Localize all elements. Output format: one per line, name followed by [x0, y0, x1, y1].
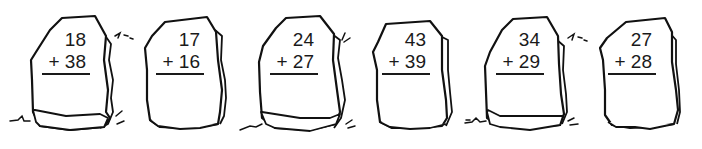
addition-problem: 43 + 39	[350, 29, 430, 75]
addition-problem: 24 + 27	[238, 29, 318, 75]
addition-problem: 18 + 38	[10, 29, 90, 75]
first-addend: 17	[124, 29, 204, 51]
second-addend: + 16	[156, 51, 204, 75]
first-addend: 43	[350, 29, 430, 51]
second-addend: + 39	[382, 51, 430, 75]
first-addend: 18	[10, 29, 90, 51]
first-addend: 27	[576, 29, 656, 51]
first-addend: 24	[238, 29, 318, 51]
second-addend: + 29	[496, 51, 544, 75]
addition-problem: 17 + 16	[124, 29, 204, 75]
first-addend: 34	[464, 29, 544, 51]
addition-problem: 34 + 29	[464, 29, 544, 75]
second-addend: + 27	[270, 51, 318, 75]
second-addend: + 38	[42, 51, 90, 75]
addition-problem: 27 + 28	[576, 29, 656, 75]
second-addend: + 28	[608, 51, 656, 75]
